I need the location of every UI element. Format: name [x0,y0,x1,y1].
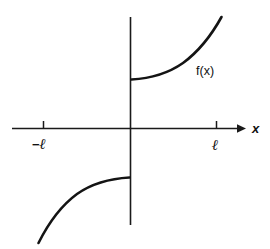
graph-figure: −ℓ ℓ x f(x) [0,0,270,249]
ell-glyph-left: ℓ [40,136,46,152]
x-axis-tick-label-negative-l: −ℓ [32,136,46,152]
ell-glyph-right: ℓ [212,137,218,153]
curve-negative-branch [39,178,130,244]
curve-label-fx: f(x) [196,64,214,78]
x-axis-arrow-icon [237,124,246,133]
graph-canvas: −ℓ ℓ x f(x) [0,0,270,249]
x-axis-label: x [251,121,260,136]
x-axis-tick-label-positive-l: ℓ [212,137,218,153]
